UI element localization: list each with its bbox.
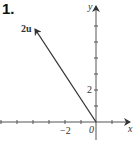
x-axis	[0, 120, 130, 124]
y-tick-label: 2	[87, 84, 92, 95]
vector-2u-arrow	[35, 29, 96, 122]
y-axis-label: y	[87, 1, 93, 12]
vector-label: 2u	[21, 23, 32, 34]
origin-label: 0	[89, 124, 94, 135]
x-tick-label: −2	[60, 125, 71, 136]
vector-diagram: 2u y x −2 2 0	[0, 0, 136, 144]
x-axis-label: x	[127, 123, 133, 134]
